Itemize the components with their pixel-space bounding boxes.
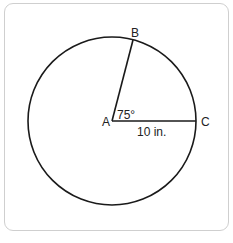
point-label-c: C [201, 115, 210, 129]
point-label-a: A [102, 115, 110, 129]
angle-label: 75° [117, 108, 135, 122]
circle-diagram: A B C 75° 10 in. [0, 0, 233, 243]
radius-label: 10 in. [137, 125, 166, 139]
point-label-b: B [131, 26, 139, 40]
